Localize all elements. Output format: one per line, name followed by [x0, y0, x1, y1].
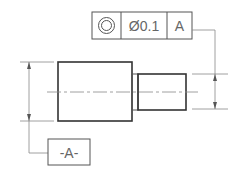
- arrowhead-icon: [27, 62, 31, 69]
- frame-leader: [192, 30, 215, 74]
- arrowhead-icon: [27, 114, 31, 121]
- arrowhead-icon: [213, 102, 217, 109]
- datum-label: -A-: [60, 145, 79, 161]
- large-diameter: [58, 62, 132, 121]
- concentricity-icon: [99, 18, 115, 34]
- arrowhead-icon: [213, 74, 217, 81]
- gdt-drawing: Ø0.1 A -A-: [0, 0, 241, 173]
- tolerance-value: Ø0.1: [129, 18, 160, 34]
- shaft-part: [58, 62, 186, 121]
- datum-reference: A: [175, 18, 185, 34]
- datum-leader: [29, 121, 48, 153]
- feature-control-frame: Ø0.1 A: [92, 12, 192, 39]
- datum-feature-symbol: -A-: [48, 139, 90, 165]
